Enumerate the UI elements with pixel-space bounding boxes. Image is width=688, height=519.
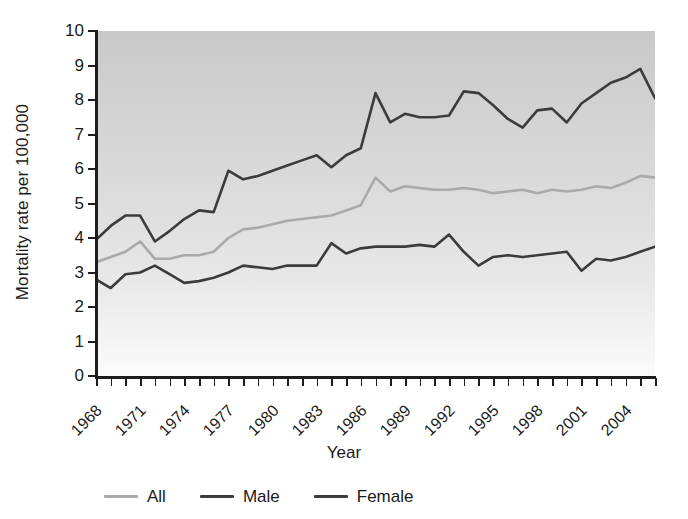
x-tick-label: 1983 bbox=[288, 402, 325, 439]
x-tick-mark bbox=[214, 378, 216, 386]
x-tick-mark bbox=[567, 378, 569, 386]
x-tick-mark bbox=[464, 378, 466, 386]
x-tick-mark bbox=[626, 378, 628, 386]
legend-label: Male bbox=[243, 488, 280, 505]
y-axis-title: Mortality rate per 100,000 bbox=[13, 37, 33, 367]
y-tick-label: 0 bbox=[46, 367, 84, 384]
x-tick-label: 1989 bbox=[377, 402, 414, 439]
x-tick-mark bbox=[493, 378, 495, 386]
x-tick-mark bbox=[523, 378, 525, 386]
x-tick-mark bbox=[449, 378, 451, 386]
x-tick-mark bbox=[361, 378, 363, 386]
x-tick-mark bbox=[140, 378, 142, 386]
x-tick-label: 1980 bbox=[244, 402, 281, 439]
plot-area bbox=[96, 31, 655, 376]
x-tick-mark bbox=[184, 378, 186, 386]
x-tick-mark bbox=[537, 378, 539, 386]
y-tick-label-text: 9 bbox=[50, 57, 84, 74]
legend-item-female[interactable]: Female bbox=[314, 488, 414, 505]
x-tick-label: 2001 bbox=[553, 402, 590, 439]
y-tick-label-text: 2 bbox=[50, 298, 84, 315]
series-line-all bbox=[96, 176, 655, 262]
x-tick-mark bbox=[655, 378, 657, 386]
y-tick-label: 6 bbox=[46, 160, 84, 177]
x-axis-title: Year bbox=[0, 443, 688, 463]
x-tick-mark bbox=[228, 378, 230, 386]
y-tick-label-text: 4 bbox=[50, 229, 84, 246]
x-tick-mark bbox=[611, 378, 613, 386]
mortality-rate-line-chart: Mortality rate per 100,000 109876543210 … bbox=[0, 0, 688, 519]
y-tick-label-text: 1 bbox=[50, 333, 84, 350]
x-tick-mark bbox=[287, 378, 289, 386]
legend-line-icon bbox=[200, 495, 234, 498]
x-tick-mark bbox=[390, 378, 392, 386]
x-tick-mark bbox=[346, 378, 348, 386]
legend-item-all[interactable]: All bbox=[104, 488, 166, 505]
x-tick-mark bbox=[317, 378, 319, 386]
legend-line-icon bbox=[314, 495, 348, 498]
y-tick-label: 5 bbox=[46, 195, 84, 212]
y-tick-label: 3 bbox=[46, 264, 84, 281]
x-tick-mark bbox=[125, 378, 127, 386]
x-tick-mark bbox=[640, 378, 642, 386]
x-tick-label: 1974 bbox=[156, 402, 193, 439]
y-tick-label: 7 bbox=[46, 126, 84, 143]
chart-legend: AllMaleFemale bbox=[104, 488, 413, 505]
series-line-male bbox=[96, 69, 655, 242]
x-tick-mark bbox=[405, 378, 407, 386]
x-tick-label: 1971 bbox=[112, 402, 149, 439]
x-tick-mark bbox=[170, 378, 172, 386]
y-tick-label: 9 bbox=[46, 57, 84, 74]
y-tick-label: 1 bbox=[46, 333, 84, 350]
x-tick-mark bbox=[434, 378, 436, 386]
x-tick-mark bbox=[331, 378, 333, 386]
x-tick-label: 1968 bbox=[68, 402, 105, 439]
y-tick-label: 2 bbox=[46, 298, 84, 315]
legend-label: Female bbox=[357, 488, 414, 505]
x-tick-label: 2004 bbox=[597, 402, 634, 439]
x-tick-mark bbox=[420, 378, 422, 386]
y-tick-label-text: 5 bbox=[50, 195, 84, 212]
y-tick-label-text: 8 bbox=[50, 91, 84, 108]
x-tick-label: 1998 bbox=[509, 402, 546, 439]
legend-label: All bbox=[147, 488, 166, 505]
x-tick-mark bbox=[581, 378, 583, 386]
series-lines bbox=[96, 31, 655, 376]
legend-item-male[interactable]: Male bbox=[200, 488, 280, 505]
legend-line-icon bbox=[104, 495, 138, 498]
x-tick-mark bbox=[302, 378, 304, 386]
x-tick-mark bbox=[376, 378, 378, 386]
x-tick-mark bbox=[273, 378, 275, 386]
series-line-female bbox=[96, 235, 655, 288]
x-tick-mark bbox=[478, 378, 480, 386]
y-tick-label: 4 bbox=[46, 229, 84, 246]
x-tick-mark bbox=[96, 378, 98, 386]
x-tick-label: 1995 bbox=[465, 402, 502, 439]
x-tick-mark bbox=[596, 378, 598, 386]
x-tick-label: 1992 bbox=[421, 402, 458, 439]
x-tick-label: 1986 bbox=[332, 402, 369, 439]
y-tick-label: 10 bbox=[46, 22, 84, 39]
y-tick-label-text: 7 bbox=[50, 126, 84, 143]
x-tick-mark bbox=[243, 378, 245, 386]
x-tick-mark bbox=[111, 378, 113, 386]
y-tick-label-text: 3 bbox=[50, 264, 84, 281]
x-tick-mark bbox=[258, 378, 260, 386]
x-tick-mark bbox=[199, 378, 201, 386]
y-tick-label-text: 0 bbox=[50, 367, 84, 384]
y-tick-label-text: 10 bbox=[50, 22, 84, 39]
x-tick-label: 1977 bbox=[200, 402, 237, 439]
x-tick-mark bbox=[508, 378, 510, 386]
y-axis-line bbox=[95, 30, 98, 377]
x-tick-mark bbox=[552, 378, 554, 386]
y-tick-label-text: 6 bbox=[50, 160, 84, 177]
y-tick-label: 8 bbox=[46, 91, 84, 108]
x-tick-mark bbox=[155, 378, 157, 386]
